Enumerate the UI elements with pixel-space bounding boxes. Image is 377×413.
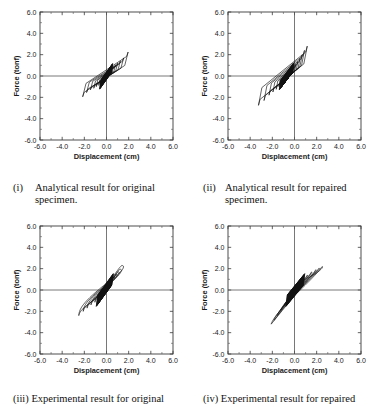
caption-i-number: (i): [13, 182, 35, 194]
caption-ii-number: (ii): [203, 182, 225, 194]
y-tick-label: -4.0: [212, 329, 224, 336]
caption-iii: (iii) Experimental result for original: [0, 393, 190, 413]
caption-iv-number: (iv): [203, 393, 218, 404]
y-tick-label: 0.0: [27, 287, 37, 294]
x-tick-label: 4.0: [334, 357, 344, 364]
y-tick-label: -2.0: [24, 94, 36, 101]
chart-panel-i: -6.0-4.0-2.00.02.04.06.0-6.0-4.0-2.00.02…: [0, 0, 190, 182]
y-tick-label: -6.0: [212, 137, 224, 144]
x-tick-label: 0.0: [102, 357, 112, 364]
x-tick-label: 6.0: [356, 143, 366, 150]
x-tick-label: 4.0: [146, 357, 156, 364]
y-axis-title: Force (tonf): [200, 269, 209, 311]
x-axis-title: Displacement (cm): [74, 152, 140, 161]
chart-panel-iii: -6.0-4.0-2.00.02.04.06.0-6.0-4.0-2.00.02…: [0, 216, 190, 393]
x-tick-label: 6.0: [356, 357, 366, 364]
x-tick-label: -2.0: [266, 357, 278, 364]
y-tick-label: 0.0: [27, 73, 37, 80]
caption-ii-line2: specimen.: [203, 194, 377, 206]
x-axis-title: Displacement (cm): [74, 366, 140, 375]
y-tick-label: 4.0: [215, 244, 225, 251]
y-tick-label: 6.0: [27, 223, 37, 230]
y-tick-label: -2.0: [24, 308, 36, 315]
y-tick-label: 2.0: [215, 51, 225, 58]
x-tick-label: 4.0: [146, 143, 156, 150]
x-tick-label: 0.0: [102, 143, 112, 150]
y-tick-label: 6.0: [215, 223, 225, 230]
x-tick-label: -2.0: [78, 357, 90, 364]
y-tick-label: -4.0: [24, 329, 36, 336]
panel-i: -6.0-4.0-2.00.02.04.06.0-6.0-4.0-2.00.02…: [0, 0, 190, 182]
y-tick-label: 6.0: [215, 9, 225, 16]
caption-i: (i) Analytical result for original speci…: [0, 182, 190, 216]
hysteresis-loops: [271, 267, 322, 325]
x-tick-label: -4.0: [56, 143, 68, 150]
y-tick-label: 2.0: [27, 265, 37, 272]
x-tick-label: 2.0: [312, 357, 322, 364]
caption-iv-line1: Experimental result for repaired: [221, 393, 355, 404]
y-tick-label: -2.0: [212, 94, 224, 101]
y-tick-label: 6.0: [27, 9, 37, 16]
x-tick-label: 0.0: [290, 357, 300, 364]
y-tick-label: -6.0: [24, 137, 36, 144]
x-tick-label: -4.0: [244, 357, 256, 364]
panel-ii: -6.0-4.0-2.00.02.04.06.0-6.0-4.0-2.00.02…: [190, 0, 377, 182]
x-tick-label: -2.0: [266, 143, 278, 150]
y-tick-label: -4.0: [212, 115, 224, 122]
x-tick-label: -4.0: [56, 357, 68, 364]
y-tick-label: -6.0: [212, 351, 224, 358]
x-tick-label: 6.0: [168, 357, 178, 364]
y-tick-label: 0.0: [215, 287, 225, 294]
caption-i-line1: Analytical result for original: [35, 182, 190, 194]
x-tick-label: 0.0: [290, 143, 300, 150]
y-tick-label: 4.0: [27, 30, 37, 37]
hysteresis-cycle: [271, 267, 322, 325]
x-axis-title: Displacement (cm): [262, 366, 328, 375]
y-axis-title: Force (tonf): [12, 269, 21, 311]
panel-iv: -6.0-4.0-2.00.02.04.06.0-6.0-4.0-2.00.02…: [190, 216, 377, 393]
y-tick-label: 4.0: [27, 244, 37, 251]
caption-iii-line1: Experimental result for original: [31, 393, 164, 404]
y-tick-label: 2.0: [27, 51, 37, 58]
caption-ii: (ii) Analytical result for repaired spec…: [190, 182, 377, 216]
panel-iii: -6.0-4.0-2.00.02.04.06.0-6.0-4.0-2.00.02…: [0, 216, 190, 393]
x-tick-label: 6.0: [168, 143, 178, 150]
x-axis-title: Displacement (cm): [262, 152, 328, 161]
caption-i-line2: specimen.: [13, 194, 190, 206]
x-tick-label: -2.0: [78, 143, 90, 150]
chart-panel-ii: -6.0-4.0-2.00.02.04.06.0-6.0-4.0-2.00.02…: [190, 0, 377, 182]
hysteresis-loops: [79, 265, 124, 315]
x-tick-label: 2.0: [312, 143, 322, 150]
x-tick-label: 2.0: [124, 143, 134, 150]
x-tick-label: -4.0: [244, 143, 256, 150]
y-axis-title: Force (tonf): [200, 55, 209, 97]
x-tick-label: 2.0: [124, 357, 134, 364]
hysteresis-loops: [83, 52, 128, 97]
y-tick-label: 4.0: [215, 30, 225, 37]
y-tick-label: -2.0: [212, 308, 224, 315]
y-tick-label: -6.0: [24, 351, 36, 358]
y-tick-label: 0.0: [215, 73, 225, 80]
caption-iii-number: (iii): [13, 393, 29, 404]
figure-grid: -6.0-4.0-2.00.02.04.06.0-6.0-4.0-2.00.02…: [0, 0, 377, 413]
y-tick-label: 2.0: [215, 265, 225, 272]
y-tick-label: -4.0: [24, 115, 36, 122]
caption-iv: (iv) Experimental result for repaired: [190, 393, 377, 413]
chart-panel-iv: -6.0-4.0-2.00.02.04.06.0-6.0-4.0-2.00.02…: [190, 216, 377, 393]
x-tick-label: 4.0: [334, 143, 344, 150]
y-axis-title: Force (tonf): [12, 55, 21, 97]
caption-ii-line1: Analytical result for repaired: [225, 182, 377, 194]
